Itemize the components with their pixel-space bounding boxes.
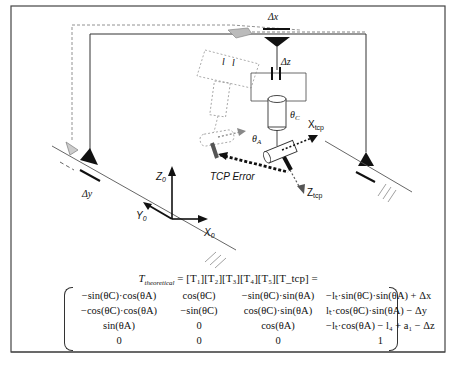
theta-a-label: θA [252, 133, 262, 146]
c-axis-cylinder [268, 96, 286, 131]
solid-frame [90, 34, 366, 152]
delta-y-label: Δy [81, 188, 93, 199]
left-rail-hatching [205, 252, 226, 268]
left-rail-dashes [60, 162, 74, 170]
z-tcp-axis [290, 170, 300, 188]
displaced-tool [212, 143, 217, 158]
left-support-dashed-triangle [66, 142, 78, 155]
tool [284, 157, 291, 170]
theta-c-label: θC [290, 109, 300, 122]
matrix-cell: −lₜ·cos(θA) − l₄ + a₁ − Δz [326, 318, 435, 333]
right-support-triangle [358, 152, 374, 166]
x-tcp-label: Xtcp [308, 119, 324, 132]
x0-label: X0 [203, 227, 215, 239]
matrix-cell: cos(θC) [168, 288, 230, 303]
top-carriage-triangle [264, 37, 290, 47]
equation-title: Ttheoretical = [T₁][T₂][T₃][T₄][T₅][T_tc… [0, 272, 456, 287]
matrix-cell: cos(θA) [230, 318, 326, 333]
world-axes [143, 166, 208, 223]
matrix-cell: 0 [168, 318, 230, 333]
transformation-matrix: −sin(θC)·cos(θA) cos(θC) −sin(θC)·sin(θA… [64, 287, 398, 349]
right-rail [325, 141, 412, 192]
y0-label: Y0 [136, 210, 147, 222]
displaced-carriage-shape [228, 28, 252, 38]
matrix-cell: 1 [326, 333, 435, 348]
a-axis-cylinder [262, 140, 297, 163]
dashed-displaced-frame [72, 25, 300, 140]
matrix-cell: 0 [70, 333, 168, 348]
z-tcp-label: Ztcp [307, 187, 323, 200]
matrix-cell: −lₜ·sin(θC)·sin(θA) + Δx [326, 288, 435, 303]
l-label-dashed-2: l [232, 57, 235, 68]
matrix-cell: sin(θA) [70, 318, 168, 333]
displaced-head-dashed [197, 50, 259, 147]
x0-arrow-icon [198, 215, 208, 223]
left-support-triangle [80, 148, 98, 165]
tcp-error-label: TCP Error [210, 171, 255, 182]
matrix-cell: 0 [230, 333, 326, 348]
matrix-cell: −cos(θC)·cos(θA) [70, 303, 168, 318]
l-label-dashed-1: l [222, 56, 225, 67]
delta-z-label: Δz [280, 56, 291, 67]
matrix-cell: 0 [168, 333, 230, 348]
y0-arrow-icon [143, 202, 152, 210]
displaced-x-tcp-axis [218, 132, 240, 137]
matrix-cell: −sin(θC) [168, 303, 230, 318]
matrix-cell: −sin(θC)·cos(θA) [70, 288, 168, 303]
z0-label: Z0 [155, 171, 166, 183]
delta-x-label: Δx [267, 11, 279, 22]
matrix-grid: −sin(θC)·cos(θA) cos(θC) −sin(θC)·sin(θA… [70, 288, 392, 348]
matrix-cell: cos(θC)·sin(θA) [230, 303, 326, 318]
right-rail-bar [356, 172, 375, 182]
right-rail-hatching [378, 184, 396, 202]
displaced-x-tcp-arrow-icon [237, 128, 246, 136]
tcp-error-arrow-icon [218, 152, 228, 160]
matrix-cell: −sin(θC)·sin(θA) [230, 288, 326, 303]
matrix-cell: lₜ·cos(θC)·sin(θA) − Δy [326, 303, 435, 318]
z0-arrow-icon [168, 166, 176, 176]
